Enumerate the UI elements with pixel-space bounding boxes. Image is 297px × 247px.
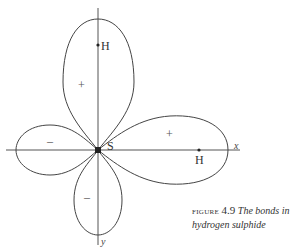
figure-hydrogen-sulphide-bonds: H H S x y + + – – figure 4.9 The bonds i…	[0, 0, 297, 247]
caption-figure-word: figure	[192, 206, 219, 216]
figure-caption: figure 4.9 The bonds in hydrogen sulphid…	[192, 203, 297, 232]
sulphur-label: S	[107, 140, 114, 152]
caption-text-line2: hydrogen sulphide	[192, 219, 266, 230]
y-axis-label: y	[101, 236, 105, 247]
top-lobe-sign: +	[78, 79, 85, 91]
hydrogen-atom-dot-top	[96, 43, 99, 46]
caption-text-line1: The bonds in	[238, 205, 290, 216]
left-lobe-sign: –	[47, 135, 53, 147]
hydrogen-label-right: H	[195, 154, 204, 166]
x-axis-label: x	[234, 140, 238, 151]
caption-figure-number: 4.9	[222, 204, 236, 216]
bottom-lobe-sign: –	[84, 191, 90, 203]
right-lobe-sign: +	[166, 128, 173, 140]
hydrogen-label-top: H	[101, 40, 110, 52]
sulphur-atom-dot	[95, 147, 101, 153]
hydrogen-atom-dot-right	[197, 148, 200, 151]
